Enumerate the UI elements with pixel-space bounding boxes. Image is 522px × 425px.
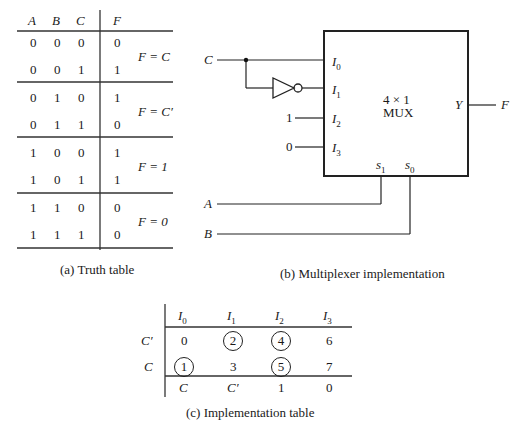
junction-dot — [244, 58, 248, 62]
truth-table-cell: 0 — [78, 91, 85, 105]
result-i1: C′ — [227, 381, 239, 395]
row-label-cprime: C′ — [141, 334, 153, 348]
truth-table-cell: 1 — [54, 118, 61, 132]
output-f-label: F — [501, 98, 509, 112]
header-c: C — [76, 14, 85, 28]
result-i2: 1 — [278, 381, 285, 395]
truth-table-cell: 1 — [78, 228, 85, 242]
truth-table-cell: 0 — [30, 91, 37, 105]
select-s0: s0 — [405, 158, 415, 177]
group-f-1: F = 1 — [138, 160, 168, 174]
impl-cell: 0 — [181, 334, 188, 348]
impl-cell: 7 — [326, 360, 333, 374]
truth-table-cell: 1 — [30, 146, 37, 160]
output-pin-y: Y — [455, 98, 462, 112]
truth-table-cell: 0 — [30, 63, 37, 77]
truth-table-cell: 0 — [54, 173, 61, 187]
truth-table-cell: 0 — [54, 63, 61, 77]
col-i3: I3 — [323, 309, 332, 328]
impl-cell-circled: 4 — [271, 331, 291, 351]
mux-wires — [217, 31, 496, 234]
input-c-label: C — [204, 53, 213, 67]
truth-table-cell: 1 — [114, 63, 121, 77]
const-0-label: 0 — [286, 140, 293, 154]
truth-table-cell: 0 — [114, 201, 121, 215]
truth-table-cell: 0 — [54, 36, 61, 50]
truth-table-cell: 0 — [114, 36, 121, 50]
group-f-cprime: F = C′ — [138, 105, 173, 119]
truth-table-cell: 1 — [54, 228, 61, 242]
header-f: F — [113, 14, 121, 28]
col-i0: I0 — [178, 309, 187, 328]
header-a: A — [28, 14, 36, 28]
truth-table-cell: 1 — [114, 173, 121, 187]
truth-table-cell: 0 — [78, 201, 85, 215]
select-a-label: A — [204, 197, 212, 211]
truth-table-cell: 0 — [78, 36, 85, 50]
truth-table-cell: 0 — [114, 118, 121, 132]
const-1-label: 1 — [286, 111, 293, 125]
pin-i3: I3 — [332, 141, 341, 160]
impl-cell: 3 — [230, 360, 237, 374]
truth-table-cell: 0 — [78, 146, 85, 160]
result-i0: C — [179, 381, 188, 395]
impl-cell-circled: 2 — [223, 331, 243, 351]
select-s1: s1 — [376, 158, 386, 177]
truth-table-cell: 1 — [114, 91, 121, 105]
select-b-label: B — [204, 227, 212, 241]
truth-table-cell: 1 — [30, 173, 37, 187]
col-i2: I2 — [275, 309, 284, 328]
truth-table-cell: 0 — [54, 146, 61, 160]
truth-table-cell: 1 — [54, 91, 61, 105]
col-i1: I1 — [227, 309, 236, 328]
truth-table-cell: 1 — [54, 201, 61, 215]
group-f-0: F = 0 — [138, 215, 168, 229]
result-i3: 0 — [326, 381, 333, 395]
caption-truth-table: (a) Truth table — [60, 262, 134, 278]
impl-cell-circled: 1 — [174, 357, 194, 377]
caption-impl-table: (c) Implementation table — [186, 405, 315, 421]
truth-table-cell: 1 — [78, 118, 85, 132]
impl-cell: 6 — [326, 334, 333, 348]
pin-i0: I0 — [332, 55, 341, 74]
caption-mux: (b) Multiplexer implementation — [280, 266, 445, 282]
truth-table-cell: 1 — [78, 63, 85, 77]
header-b: B — [52, 14, 60, 28]
impl-cell-circled: 5 — [271, 357, 291, 377]
truth-table-cell: 1 — [30, 228, 37, 242]
row-label-c: C — [144, 360, 153, 374]
truth-table-cell: 0 — [114, 228, 121, 242]
pin-i1: I1 — [332, 83, 341, 102]
truth-table-cell: 1 — [78, 173, 85, 187]
group-f-c: F = C — [138, 50, 170, 64]
truth-table-cell: 1 — [114, 146, 121, 160]
pin-i2: I2 — [332, 112, 341, 131]
truth-table-cell: 0 — [30, 36, 37, 50]
mux-name-label: MUX — [383, 106, 413, 120]
truth-table-cell: 0 — [30, 118, 37, 132]
truth-table-cell: 1 — [30, 201, 37, 215]
